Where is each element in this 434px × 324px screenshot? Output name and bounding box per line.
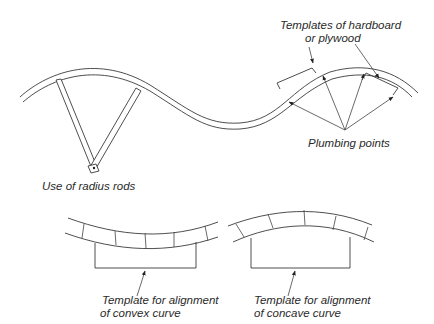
templates: [277, 68, 398, 95]
plumbing-points-label: Plumbing points: [308, 137, 390, 149]
radius-rods-label: Use of radius rods: [42, 180, 136, 192]
convex-curve-figure: [65, 218, 218, 296]
diagram-canvas: Use of radius rods Templates of hardboar…: [0, 0, 434, 324]
convex-template-label-line1: Template for alignment: [102, 294, 219, 306]
plumbing-arrows: [289, 74, 393, 130]
templates-label-line2: or plywood: [305, 32, 361, 44]
radius-rods: [56, 79, 141, 173]
concave-curve-figure: [228, 210, 374, 296]
concave-template-label-line1: Template for alignment: [254, 294, 371, 306]
concave-template-label-line2: of concave curve: [254, 307, 341, 319]
serpentine-wall: [20, 68, 418, 129]
templates-label-line1: Templates of hardboard: [280, 19, 402, 31]
convex-template-label-line2: of convex curve: [100, 307, 181, 319]
